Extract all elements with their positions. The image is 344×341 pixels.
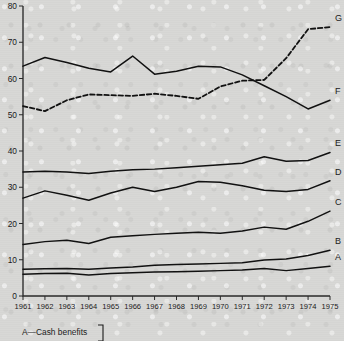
x-tick-label: 1961: [15, 302, 32, 311]
chart-canvas: 01020304050607080 1961196219631964196519…: [0, 0, 344, 341]
series-label-b: B: [335, 236, 341, 246]
series-line-g: [23, 27, 330, 111]
series-label-c: C: [335, 197, 342, 207]
x-tick-label: 1970: [212, 302, 229, 311]
series-line-d: [23, 181, 330, 201]
series-line-f: [23, 56, 330, 109]
caption-bracket: [98, 325, 103, 341]
series-line-b: [23, 250, 330, 269]
series-label-a: A: [335, 252, 341, 262]
y-tick-label: 0: [12, 291, 17, 301]
x-tick-label: 1971: [234, 302, 251, 311]
x-tick-label: 1969: [190, 302, 207, 311]
x-tick-label: 1975: [322, 302, 339, 311]
series-line-e: [23, 152, 330, 173]
x-tick-label: 1974: [300, 302, 317, 311]
y-tick-label: 40: [8, 146, 18, 156]
series-lines: [23, 27, 330, 275]
y-tick-label: 50: [8, 110, 18, 120]
y-axis-ticks: 01020304050607080: [8, 1, 23, 301]
y-tick-label: 20: [8, 219, 18, 229]
line-chart: 01020304050607080 1961196219631964196519…: [0, 0, 344, 341]
x-tick-label: 1973: [278, 302, 295, 311]
y-tick-label: 80: [8, 1, 18, 11]
series-line-a: [23, 266, 330, 275]
y-tick-label: 70: [8, 37, 18, 47]
x-tick-label: 1965: [102, 302, 119, 311]
y-tick-label: 10: [8, 255, 18, 265]
x-tick-label: 1966: [124, 302, 141, 311]
series-label-d: D: [335, 167, 342, 177]
caption-entry-a: A—Cash benefits: [22, 327, 87, 337]
x-tick-label: 1963: [58, 302, 75, 311]
chart-axes: [23, 6, 330, 296]
x-axis-ticks: 1961196219631964196519661967196819691970…: [15, 296, 339, 311]
y-tick-label: 30: [8, 182, 18, 192]
x-tick-label: 1968: [168, 302, 185, 311]
x-tick-label: 1967: [146, 302, 163, 311]
series-label-f: F: [335, 86, 341, 96]
x-tick-label: 1962: [36, 302, 53, 311]
series-line-c: [23, 211, 330, 244]
x-tick-label: 1964: [80, 302, 97, 311]
x-tick-label: 1972: [256, 302, 273, 311]
series-end-labels: ABCDEFG: [335, 13, 342, 262]
series-label-g: G: [335, 13, 342, 23]
series-label-e: E: [335, 138, 341, 148]
caption-block: A—Cash benefits: [22, 325, 103, 341]
y-tick-label: 60: [8, 74, 18, 84]
